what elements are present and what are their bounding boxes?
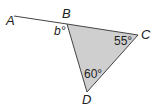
angle-c: 55° (114, 34, 132, 48)
geometry-diagram: A B C D b° 55° 60° (0, 0, 156, 106)
angle-d: 60° (84, 67, 102, 81)
label-a: A (5, 13, 15, 28)
label-d: D (82, 92, 91, 106)
label-b: B (62, 6, 71, 21)
angle-b: b° (54, 24, 66, 38)
line-ab (14, 16, 67, 24)
label-c: C (141, 27, 151, 42)
